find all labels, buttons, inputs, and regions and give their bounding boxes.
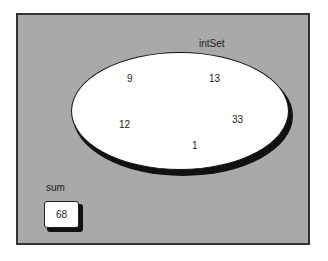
sum-label: sum bbox=[46, 182, 65, 193]
set-element: 1 bbox=[192, 140, 198, 151]
set-element: 13 bbox=[209, 73, 220, 84]
set-label: intSet bbox=[199, 38, 225, 49]
set-element: 33 bbox=[232, 114, 243, 125]
sum-value-box: 68 bbox=[44, 201, 79, 228]
set-element: 12 bbox=[119, 119, 130, 130]
set-ellipse bbox=[71, 52, 289, 170]
set-element: 9 bbox=[127, 73, 133, 84]
